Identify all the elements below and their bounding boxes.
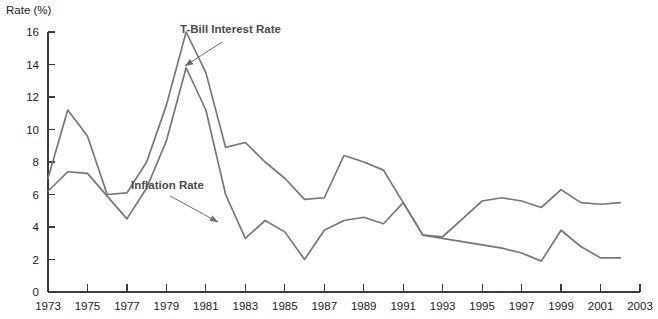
chart-canvas: Rate (%) 0246810121416 19731975197719791… [0,0,658,319]
x-axis-tick-label: 1995 [469,300,495,312]
y-axis-title-group: Rate (%) [6,4,52,16]
x-axis-tick-label: 1993 [430,300,456,312]
y-axis-tick-label: 16 [26,26,39,38]
chart-annotations: T-Bill Interest RateInflation Rate [131,23,281,222]
y-axis-tick-label: 2 [33,254,39,266]
y-axis: 0246810121416 [26,26,55,298]
x-axis-tick-label: 1981 [193,300,219,312]
x-axis-tick-label: 1999 [548,300,574,312]
y-axis-title: Rate (%) [6,4,52,16]
x-axis-tick-label: 1989 [351,300,377,312]
series-lines [48,32,620,261]
economic-rates-line-chart: Rate (%) 0246810121416 19731975197719791… [0,0,658,319]
annotation-label: Inflation Rate [131,179,204,191]
x-axis-tick-label: 1985 [272,300,298,312]
y-axis-tick-label: 14 [26,59,39,71]
annotation-leader-line [170,196,218,222]
y-axis-tick-label: 12 [26,91,39,103]
x-axis-tick-label: 1973 [35,300,61,312]
x-axis-tick-label: 1979 [154,300,180,312]
x-axis-tick-label: 1975 [75,300,101,312]
annotation-arrowhead-icon [185,59,193,66]
x-axis-tick-label: 2003 [627,300,653,312]
y-axis-tick-label: 10 [26,124,39,136]
x-axis-tick-label: 2001 [588,300,614,312]
x-axis-tick-label: 1997 [509,300,535,312]
x-axis-tick-label: 1977 [114,300,140,312]
series-line-t-bill-interest-rate [48,32,620,237]
series-line-inflation-rate [48,68,620,261]
x-axis-tick-label: 1987 [311,300,337,312]
y-axis-tick-label: 6 [33,189,39,201]
y-axis-tick-label: 0 [33,286,39,298]
x-axis-tick-label: 1991 [390,300,416,312]
annotation-label: T-Bill Interest Rate [180,23,281,35]
y-axis-tick-label: 8 [33,156,39,168]
x-axis-tick-label: 1983 [233,300,259,312]
y-axis-tick-label: 4 [33,221,40,233]
annotation-arrowhead-icon [209,215,218,222]
x-axis: 1973197519771979198119831985198719891991… [35,284,653,312]
